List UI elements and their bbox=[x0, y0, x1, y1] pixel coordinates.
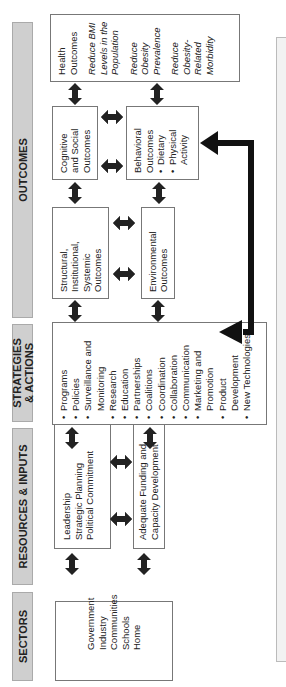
health-goal: Reduce Obesity-Related Morbidity bbox=[169, 20, 215, 75]
strategy-item: Research bbox=[107, 328, 119, 419]
double-arrow-icon bbox=[150, 83, 164, 105]
strategy-item: Coordination bbox=[156, 328, 168, 419]
double-arrow-icon bbox=[65, 553, 79, 575]
behavioral-outcomes-list: Dietary Physical Activity bbox=[155, 113, 190, 173]
double-arrow-icon bbox=[137, 553, 151, 575]
strategy-item: Education bbox=[119, 328, 131, 419]
double-arrow-icon bbox=[101, 110, 123, 124]
header-outcomes-label: OUTCOMES bbox=[17, 138, 29, 202]
leadership-line: Leadership bbox=[61, 433, 73, 540]
sector-item: Schools bbox=[120, 607, 132, 650]
behavioral-outcomes-title: Behavioral Outcomes bbox=[132, 123, 155, 173]
double-arrow-icon bbox=[68, 300, 82, 322]
health-outcomes-title: Health Outcomes bbox=[56, 30, 79, 75]
health-goal: Reduce BMI Levels in the Population bbox=[86, 20, 121, 75]
leadership-line: Strategic Planning bbox=[73, 433, 85, 540]
double-arrow-icon bbox=[68, 83, 82, 105]
cognitive-outcomes-label: Cognitive and Social Outcomes bbox=[58, 117, 93, 173]
leadership-box: Leadership Strategic Planning Political … bbox=[54, 424, 111, 549]
double-arrow-icon bbox=[152, 182, 166, 204]
double-arrow-icon bbox=[113, 267, 135, 281]
header-resources-label: RESOURCES & INPUTS bbox=[17, 444, 29, 568]
health-outcomes-box: Health Outcomes Reduce BMI Levels in the… bbox=[50, 14, 240, 82]
behavioral-item: Physical Activity bbox=[167, 125, 190, 173]
double-arrow-icon bbox=[68, 182, 82, 204]
sector-item: Industry bbox=[97, 607, 109, 650]
sectors-box: Government Industry Communities Schools … bbox=[55, 601, 173, 681]
strategy-item: Partnerships bbox=[131, 328, 143, 419]
behavioral-outcomes-box: Behavioral Outcomes Dietary Physical Act… bbox=[126, 106, 199, 180]
strategy-item: Collaboration bbox=[168, 328, 180, 419]
strategies-list: Programs Policies Surveillance and Monit… bbox=[58, 328, 253, 419]
sector-item: Government bbox=[85, 607, 97, 650]
strategy-item: Surveillance and Monitoring bbox=[82, 328, 106, 419]
sector-item: Home bbox=[131, 607, 143, 650]
header-strategies: STRATEGIES & ACTIONS bbox=[12, 324, 33, 422]
header-strategies-label: STRATEGIES & ACTIONS bbox=[11, 333, 35, 413]
cognitive-outcomes-box: Cognitive and Social Outcomes bbox=[52, 106, 98, 180]
background-panel bbox=[276, 37, 286, 662]
funding-line: Adequate Funding and bbox=[137, 433, 149, 540]
strategy-item: Product Development bbox=[217, 328, 241, 419]
double-arrow-icon bbox=[110, 455, 132, 469]
strategy-item: Policies bbox=[70, 328, 82, 419]
double-arrow-icon bbox=[151, 300, 165, 322]
double-arrow-icon bbox=[110, 512, 132, 526]
obesity-framework-diagram: SECTORS RESOURCES & INPUTS STRATEGIES & … bbox=[0, 0, 286, 687]
behavioral-item: Dietary bbox=[155, 113, 167, 173]
health-goal: Reduce Obesity Prevalence bbox=[128, 20, 163, 75]
funding-line: Capacity Development bbox=[149, 433, 161, 540]
strategy-item: Coalitions bbox=[143, 328, 155, 419]
double-arrow-icon bbox=[113, 216, 135, 230]
strategy-item: Marketing and Promotion bbox=[192, 328, 216, 419]
header-sectors: SECTORS bbox=[12, 592, 33, 681]
structural-outcomes-label: Structural, Institutional, Systemic Outc… bbox=[58, 220, 104, 292]
sector-item: Communities bbox=[108, 607, 120, 650]
structural-outcomes-box: Structural, Institutional, Systemic Outc… bbox=[52, 207, 109, 299]
header-outcomes: OUTCOMES bbox=[12, 22, 33, 318]
funding-box: Adequate Funding and Capacity Developmen… bbox=[133, 424, 165, 549]
strategy-item: New Technologies bbox=[241, 328, 253, 419]
leadership-line: Political Commitment bbox=[84, 433, 96, 540]
environmental-outcomes-box: Environmental Outcomes bbox=[141, 207, 175, 299]
strategies-box: Programs Policies Surveillance and Monit… bbox=[52, 322, 267, 425]
feedback-arrow-icon bbox=[213, 137, 253, 337]
environmental-outcomes-label: Environmental Outcomes bbox=[147, 220, 170, 292]
header-sectors-label: SECTORS bbox=[17, 610, 29, 663]
header-resources: RESOURCES & INPUTS bbox=[12, 428, 33, 585]
strategy-item: Programs bbox=[58, 328, 70, 419]
double-arrow-icon bbox=[101, 159, 123, 173]
strategy-item: Communication bbox=[180, 328, 192, 419]
